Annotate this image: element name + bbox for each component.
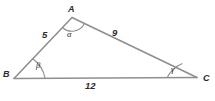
side-label-ab: 5 — [42, 30, 47, 40]
triangle-svg — [0, 0, 215, 101]
vertex-label-c: C — [203, 74, 210, 83]
side-label-ac: 9 — [112, 28, 117, 38]
angle-arc-gamma — [167, 64, 183, 78]
angle-label-alpha: α — [67, 30, 71, 39]
side-bc-line — [14, 78, 197, 79]
angle-label-gamma: γ — [171, 65, 174, 74]
side-ac-line — [72, 18, 197, 78]
vertex-label-b: B — [3, 70, 10, 79]
side-ab-line — [14, 18, 72, 79]
triangle-diagram: A B C 5 9 12 α β γ — [0, 0, 215, 101]
vertex-label-a: A — [68, 5, 75, 14]
side-label-bc: 12 — [85, 81, 96, 91]
angle-label-beta: β — [36, 61, 40, 70]
